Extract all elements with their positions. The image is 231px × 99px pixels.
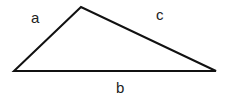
label-side-b: b bbox=[116, 79, 124, 96]
triangle-diagram: a c b bbox=[0, 0, 231, 99]
label-side-a: a bbox=[31, 9, 40, 26]
triangle bbox=[14, 7, 216, 71]
label-side-c: c bbox=[156, 6, 164, 23]
